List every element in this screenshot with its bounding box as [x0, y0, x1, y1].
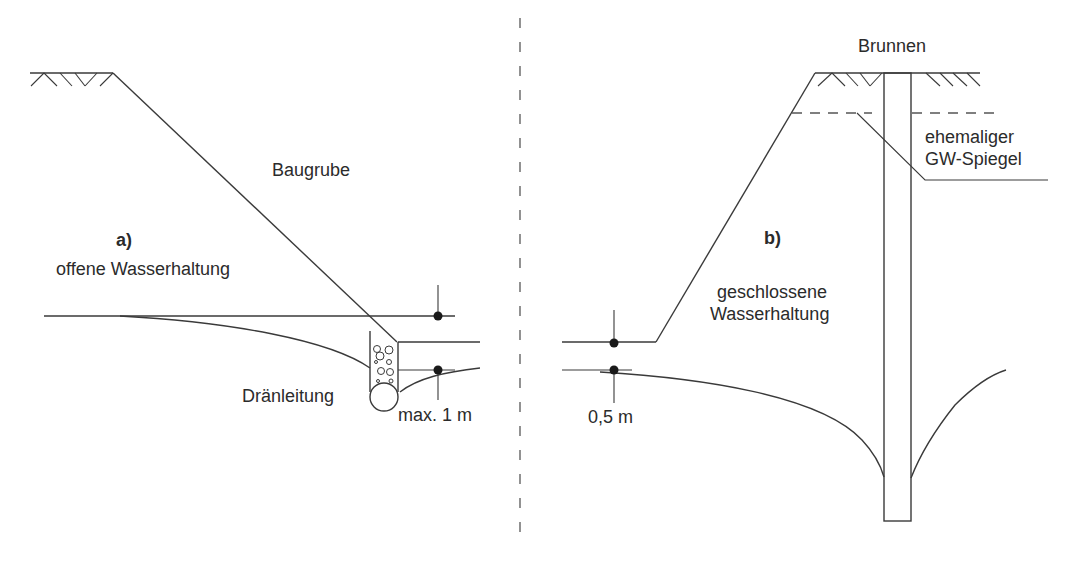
well-casing	[884, 73, 911, 521]
dewatering-diagram	[0, 0, 1075, 562]
level-marker-a-upper	[434, 312, 443, 321]
ground-hatch-icon-b-left	[818, 73, 882, 86]
slope-a	[113, 73, 397, 342]
former-gw-label-line1: ehemaliger	[925, 127, 1014, 148]
drain-label: Dränleitung	[242, 386, 334, 407]
panel-a-drawing	[30, 73, 480, 411]
level-marker-b-upper	[610, 339, 619, 348]
excavation-label: Baugrube	[272, 160, 350, 181]
dimension-label-b: 0,5 m	[588, 407, 633, 428]
ground-hatch-icon-a	[31, 73, 113, 86]
level-marker-b-lower	[610, 366, 619, 375]
well-label: Brunnen	[858, 36, 926, 57]
panel-b-marker: b)	[764, 228, 781, 249]
panel-b-title-line2: Wasserhaltung	[710, 304, 829, 325]
ground-hatch-icon-b-right	[926, 73, 980, 86]
level-marker-a-lower	[434, 366, 443, 375]
former-gw-label-line2: GW-Spiegel	[925, 149, 1022, 170]
drain-pipe-icon	[370, 383, 398, 411]
dimension-label-a: max. 1 m	[398, 405, 472, 426]
drawdown-curve-b-right	[911, 370, 1006, 478]
drawdown-curve-b-left	[600, 372, 884, 477]
panel-a-marker: a)	[116, 230, 132, 251]
panel-a-title: offene Wasserhaltung	[56, 259, 230, 280]
panel-b-title-line1: geschlossene	[717, 282, 827, 303]
gravel-fill-icon	[374, 346, 394, 384]
drawdown-curve-a-left	[120, 316, 370, 368]
